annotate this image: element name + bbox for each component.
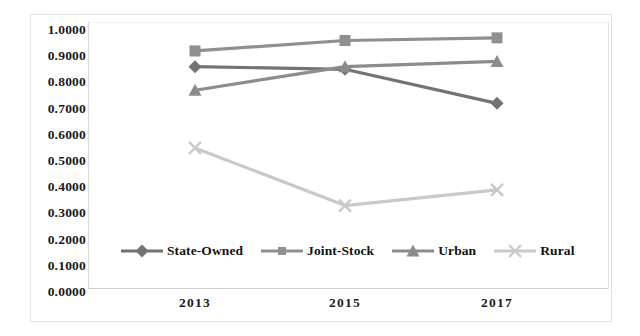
legend-label: Rural: [540, 243, 574, 259]
y-tick-label: 0.8000: [30, 74, 86, 90]
diamond-marker: [136, 245, 149, 258]
y-tick-label: 0.4000: [30, 179, 86, 195]
x-tick-label: 2015: [329, 295, 361, 311]
y-tick-label: 1.0000: [30, 22, 86, 38]
legend-item-state-owned[interactable]: State-Owned: [120, 243, 243, 259]
square-marker: [278, 247, 286, 255]
chart-legend: State-OwnedJoint-StockUrbanRural: [120, 240, 574, 262]
legend-label: State-Owned: [167, 243, 243, 259]
x-tick-label: 2017: [481, 295, 513, 311]
y-axis-tick-labels: 1.00000.90000.80000.70000.60000.50000.40…: [30, 22, 86, 289]
y-tick-label: 0.7000: [30, 101, 86, 117]
y-tick-label: 0.0000: [30, 284, 86, 300]
legend-item-rural[interactable]: Rural: [493, 243, 574, 259]
legend-label: Urban: [438, 243, 476, 259]
legend-swatch-square: [260, 244, 304, 258]
legend-item-urban[interactable]: Urban: [391, 243, 476, 259]
legend-swatch-triangle: [391, 244, 435, 258]
y-tick-label: 0.9000: [30, 48, 86, 64]
legend-item-joint-stock[interactable]: Joint-Stock: [260, 243, 374, 259]
legend-swatch-diamond: [120, 244, 164, 258]
y-tick-label: 0.5000: [30, 153, 86, 169]
legend-swatch-cross: [493, 244, 537, 258]
x-axis-tick-labels: 201320152017: [88, 295, 609, 317]
y-tick-label: 0.2000: [30, 232, 86, 248]
x-tick-label: 2013: [179, 295, 211, 311]
y-tick-label: 0.3000: [30, 205, 86, 221]
y-tick-label: 0.6000: [30, 127, 86, 143]
y-tick-label: 0.1000: [30, 258, 86, 274]
line-chart: 1.00000.90000.80000.70000.60000.50000.40…: [0, 0, 640, 336]
legend-label: Joint-Stock: [307, 243, 374, 259]
